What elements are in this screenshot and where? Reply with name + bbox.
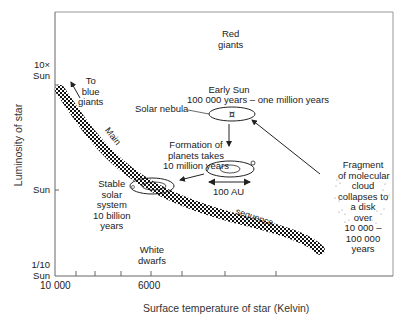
stable-line: years [93, 221, 131, 232]
y-tick-tenth-sun: 1/10 Sun [20, 260, 50, 281]
blue-giants-line: To [78, 76, 103, 87]
label-fragment: Fragment of molecular cloud collapses to… [338, 160, 388, 255]
y-tick-10x-sun: 10× Sun [20, 60, 50, 81]
y-tick-10x: 10× [20, 60, 50, 71]
white-dwarfs-line: White [138, 245, 166, 256]
y-axis-title: Luminosity of star [12, 104, 24, 186]
stable-line: Stable [93, 179, 131, 190]
label-red-giants: Red giants [218, 29, 243, 50]
hr-diagram: ¤ [0, 0, 405, 320]
white-dwarfs-line: dwarfs [138, 256, 166, 267]
label-solar-nebula: Solar nebula [135, 104, 188, 115]
x-axis-title: Surface temperature of star (Kelvin) [143, 302, 309, 314]
formation-line: Formation of [163, 140, 229, 151]
y-tick-10x-sun-word: Sun [20, 71, 50, 82]
label-early-sun-time: 100 000 years – one million years [187, 95, 329, 106]
label-stable-system: Stable solar system 10 billion years [93, 179, 131, 232]
fragment-line: Fragment [338, 160, 388, 171]
label-formation: Formation of planets takes 10 million ye… [163, 140, 229, 172]
label-blue-giants: To blue giants [78, 76, 103, 108]
blue-giants-line: giants [78, 97, 103, 108]
solar-nebula-ellipse: ¤ [209, 107, 255, 121]
red-giants-line: Red [218, 29, 243, 40]
x-ticks [76, 271, 276, 276]
stable-line: system [93, 200, 131, 211]
fragment-line: 10 000 – [338, 223, 388, 234]
svg-text:¤: ¤ [229, 109, 235, 120]
red-giants-line: giants [218, 40, 243, 51]
formation-line: 10 million years [163, 161, 229, 172]
x-tick-6000: 6000 [138, 281, 160, 292]
fragment-line: a disk [338, 202, 388, 213]
y-tick-tenth: 1/10 [20, 260, 50, 271]
label-white-dwarfs: White dwarfs [138, 245, 166, 266]
label-100-au: 100 AU [213, 187, 244, 198]
x-tick-10000: 10 000 [40, 281, 71, 292]
nebula-leader [188, 110, 209, 114]
collapse-arrow [252, 120, 320, 174]
y-tick-sun: Sun [20, 185, 50, 196]
y-ticks [55, 85, 59, 190]
fragment-line: cloud [338, 181, 388, 192]
fragment-line: years [338, 244, 388, 255]
to-stable-arrow [180, 174, 204, 180]
